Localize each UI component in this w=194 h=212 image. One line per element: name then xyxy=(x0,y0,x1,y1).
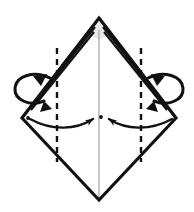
origami-diagram-figure: Origami fold step diagram Kite/diamond s… xyxy=(0,0,194,212)
diagram-canvas xyxy=(0,0,194,212)
center-target-dot xyxy=(99,115,103,119)
